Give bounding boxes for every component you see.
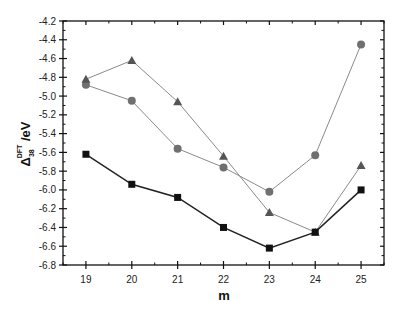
y-tick-label: -5.4 bbox=[39, 128, 57, 139]
y-tick-label: -6.2 bbox=[39, 203, 57, 214]
circle-marker bbox=[220, 163, 228, 171]
y-tick-label: -6.6 bbox=[39, 241, 57, 252]
data-series bbox=[81, 40, 365, 251]
y-tick-label: -4.8 bbox=[39, 72, 57, 83]
square-marker bbox=[358, 186, 365, 193]
x-tick-label: 24 bbox=[310, 274, 322, 285]
square-marker bbox=[266, 245, 273, 252]
square-marker bbox=[128, 181, 135, 188]
square-marker bbox=[82, 151, 89, 158]
x-tick-label: 21 bbox=[172, 274, 184, 285]
square-marker bbox=[312, 229, 319, 236]
x-axis-title: m bbox=[218, 288, 230, 303]
series-line bbox=[86, 60, 361, 232]
y-tick-label: -5.0 bbox=[39, 91, 57, 102]
line-chart: -4.2-4.4-4.6-4.8-5.0-5.2-5.4-5.6-5.8-6.0… bbox=[0, 0, 402, 309]
y-tick-label: -4.2 bbox=[39, 16, 57, 27]
triangle-marker bbox=[127, 56, 136, 64]
y-tick-label: -6.4 bbox=[39, 222, 57, 233]
x-tick-label: 25 bbox=[356, 274, 368, 285]
y-tick-label: -4.4 bbox=[39, 34, 57, 45]
square-marker bbox=[174, 194, 181, 201]
y-tick-label: -6.8 bbox=[39, 260, 57, 271]
triangle-marker bbox=[81, 75, 90, 83]
y-axis-title-sup: DFT bbox=[16, 144, 23, 158]
y-tick-label: -5.8 bbox=[39, 166, 57, 177]
circle-marker bbox=[357, 40, 365, 48]
y-axis-title-sub: 38 bbox=[28, 149, 35, 157]
y-axis: -4.2-4.4-4.6-4.8-5.0-5.2-5.4-5.6-5.8-6.0… bbox=[39, 16, 384, 271]
triangle-marker bbox=[357, 161, 366, 169]
x-tick-label: 23 bbox=[264, 274, 276, 285]
series-triangles bbox=[81, 56, 365, 236]
y-axis-title-suffix: /eV bbox=[18, 121, 33, 144]
y-tick-label: -5.2 bbox=[39, 109, 57, 120]
y-tick-label: -4.6 bbox=[39, 53, 57, 64]
circle-marker bbox=[174, 145, 182, 153]
y-axis-title: Δ38DFT /eV bbox=[16, 121, 35, 166]
circle-marker bbox=[265, 188, 273, 196]
circle-marker bbox=[128, 97, 136, 105]
square-marker bbox=[220, 224, 227, 231]
circle-marker bbox=[311, 151, 319, 159]
x-tick-label: 20 bbox=[126, 274, 138, 285]
y-tick-label: -5.6 bbox=[39, 147, 57, 158]
y-tick-label: -6.0 bbox=[39, 184, 57, 195]
x-tick-label: 22 bbox=[218, 274, 230, 285]
x-tick-label: 19 bbox=[80, 274, 92, 285]
